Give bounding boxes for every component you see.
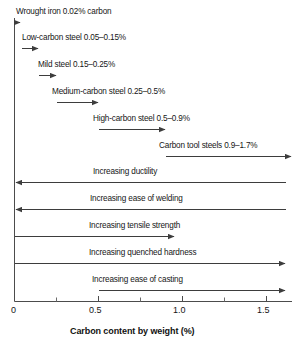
range-label-carbon-tool-steels: Carbon tool steels 0.9–1.7% [159,141,257,151]
carbon-content-chart: Wrought iron 0.02% carbon Low-carbon ste… [0,0,298,347]
range-label-low-carbon-steel: Low-carbon steel 0.05–0.15% [22,33,126,43]
trend-label-increasing-tensile-strength: Increasing tensile strength [89,221,180,231]
x-tick-label-1.0: 1.0 [173,305,186,315]
trend-label-increasing-ease-of-welding: Increasing ease of welding [90,194,183,204]
x-tick-label-0: 0 [11,305,16,315]
range-label-high-carbon-steel: High-carbon steel 0.5–0.9% [93,114,190,124]
trend-label-increasing-quenched-hardness: Increasing quenched hardness [89,248,196,258]
x-tick-label-0.5: 0.5 [89,305,102,315]
trend-label-increasing-ductility: Increasing ductility [93,167,157,177]
range-label-medium-carbon-steel: Medium-carbon steel 0.25–0.5% [52,87,165,97]
trend-label-increasing-ease-of-casting: Increasing ease of casting [92,275,183,285]
range-label-wrought-iron: Wrought iron 0.02% carbon [16,7,111,17]
range-label-mild-steel: Mild steel 0.15–0.25% [38,60,115,70]
x-axis-title: Carbon content by weight (%) [70,326,194,336]
x-tick-label-1.5: 1.5 [257,305,270,315]
